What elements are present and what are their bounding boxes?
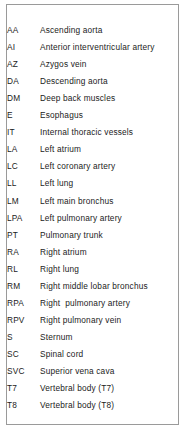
abbreviation-code: LC — [7, 158, 40, 175]
abbreviation-code: RL — [7, 261, 40, 278]
abbreviation-description: Left pulmonary artery — [40, 210, 178, 227]
abbreviation-code: LA — [7, 141, 40, 158]
abbreviation-code: T7 — [7, 380, 40, 397]
abbreviation-description: Right middle lobar bronchus — [40, 278, 178, 295]
legend-table-body: AAAscending aortaAIAnterior interventric… — [7, 5, 178, 414]
abbreviation-code: AI — [7, 39, 40, 56]
abbreviation-code: DA — [7, 73, 40, 90]
legend-row: ITInternal thoracic vessels — [7, 124, 178, 141]
legend-row: RLRight lung — [7, 261, 178, 278]
abbreviation-code: RM — [7, 278, 40, 295]
legend-row: LMLeft main bronchus — [7, 193, 178, 210]
legend-row: DADescending aorta — [7, 73, 178, 90]
legend-row: SVCSuperior vena cava — [7, 363, 178, 380]
abbreviation-code: E — [7, 107, 40, 124]
legend-row: EEsophagus — [7, 107, 178, 124]
legend-row: SSternum — [7, 329, 178, 346]
abbreviation-code: DM — [7, 90, 40, 107]
abbreviation-code: PT — [7, 227, 40, 244]
legend-panel: AAAscending aortaAIAnterior interventric… — [6, 4, 179, 425]
abbreviation-code: AZ — [7, 56, 40, 73]
legend-row: T8Vertebral body (T8) — [7, 397, 178, 414]
legend-row: AIAnterior interventricular artery — [7, 39, 178, 56]
abbreviation-description: Superior vena cava — [40, 363, 178, 380]
legend-row: RMRight middle lobar bronchus — [7, 278, 178, 295]
legend-row: SCSpinal cord — [7, 346, 178, 363]
abbreviation-description: Internal thoracic vessels — [40, 124, 178, 141]
abbreviation-legend-table: AAAscending aortaAIAnterior interventric… — [7, 5, 178, 414]
abbreviation-code: LL — [7, 175, 40, 192]
abbreviation-description: Ascending aorta — [40, 22, 178, 39]
abbreviation-description: Pulmonary trunk — [40, 227, 178, 244]
legend-row: RARight atrium — [7, 244, 178, 261]
legend-row: RPARight pulmonary artery — [7, 295, 178, 312]
abbreviation-description: Sternum — [40, 329, 178, 346]
abbreviation-description: Right lung — [40, 261, 178, 278]
abbreviation-description: Deep back muscles — [40, 90, 178, 107]
abbreviation-description: Vertebral body (T7) — [40, 380, 178, 397]
legend-top-spacer — [7, 5, 178, 22]
abbreviation-description: Right pulmonary artery — [40, 295, 178, 312]
legend-row: AAAscending aorta — [7, 22, 178, 39]
abbreviation-code: IT — [7, 124, 40, 141]
spacer-cell-abbr — [7, 5, 40, 22]
abbreviation-description: Left atrium — [40, 141, 178, 158]
abbreviation-code: T8 — [7, 397, 40, 414]
abbreviation-description: Spinal cord — [40, 346, 178, 363]
legend-row: PTPulmonary trunk — [7, 227, 178, 244]
abbreviation-description: Esophagus — [40, 107, 178, 124]
legend-row: AZAzygos vein — [7, 56, 178, 73]
abbreviation-code: LPA — [7, 210, 40, 227]
abbreviation-code: RPA — [7, 295, 40, 312]
abbreviation-code: RPV — [7, 312, 40, 329]
abbreviation-description: Left coronary artery — [40, 158, 178, 175]
abbreviation-code: LM — [7, 193, 40, 210]
abbreviation-code: SVC — [7, 363, 40, 380]
legend-row: DMDeep back muscles — [7, 90, 178, 107]
abbreviation-description: Azygos vein — [40, 56, 178, 73]
abbreviation-code: RA — [7, 244, 40, 261]
abbreviation-description: Vertebral body (T8) — [40, 397, 178, 414]
abbreviation-description: Right atrium — [40, 244, 178, 261]
legend-row: LPALeft pulmonary artery — [7, 210, 178, 227]
abbreviation-description: Anterior interventricular artery — [40, 39, 178, 56]
legend-row: RPVRight pulmonary vein — [7, 312, 178, 329]
legend-row: LCLeft coronary artery — [7, 158, 178, 175]
abbreviation-description: Right pulmonary vein — [40, 312, 178, 329]
legend-row: LLLeft lung — [7, 175, 178, 192]
abbreviation-code: AA — [7, 22, 40, 39]
abbreviation-code: SC — [7, 346, 40, 363]
legend-row: T7Vertebral body (T7) — [7, 380, 178, 397]
abbreviation-code: S — [7, 329, 40, 346]
abbreviation-description: Descending aorta — [40, 73, 178, 90]
abbreviation-description: Left lung — [40, 175, 178, 192]
abbreviation-description: Left main bronchus — [40, 193, 178, 210]
spacer-cell-desc — [40, 5, 178, 22]
legend-row: LALeft atrium — [7, 141, 178, 158]
